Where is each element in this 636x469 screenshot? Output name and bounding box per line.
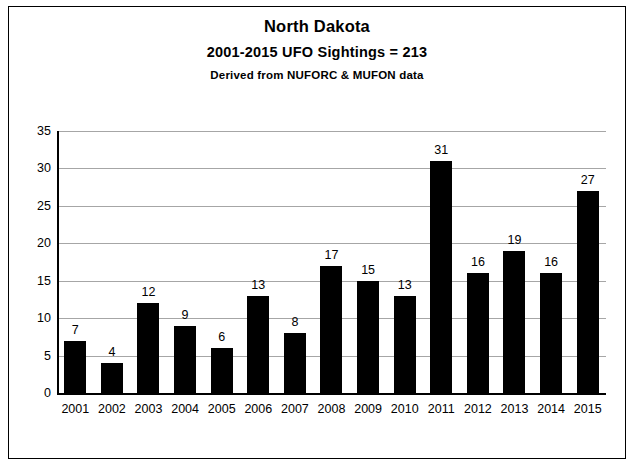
bar xyxy=(394,296,416,393)
chart-header: North Dakota 2001-2015 UFO Sightings = 2… xyxy=(9,17,625,81)
bar xyxy=(467,273,489,393)
chart-source-note: Derived from NUFORC & MUFON data xyxy=(9,69,625,81)
x-axis-tick: 2001 xyxy=(61,402,89,416)
x-axis-tick: 2015 xyxy=(574,402,602,416)
bar-group: 272015 xyxy=(569,131,606,393)
bar xyxy=(320,266,342,393)
bar-group: 132006 xyxy=(240,131,277,393)
y-axis-tick: 20 xyxy=(37,236,51,250)
x-axis-tick: 2006 xyxy=(244,402,272,416)
bar-value-label: 7 xyxy=(72,323,79,337)
y-axis-tick: 15 xyxy=(37,274,51,288)
bar-group: 152009 xyxy=(350,131,387,393)
bar-value-label: 15 xyxy=(361,263,375,277)
bar-value-label: 13 xyxy=(251,278,265,292)
y-axis-line xyxy=(57,131,59,393)
bar-value-label: 27 xyxy=(581,173,595,187)
x-axis-tick: 2002 xyxy=(98,402,126,416)
bar-group: 82007 xyxy=(277,131,314,393)
bar xyxy=(64,341,86,393)
y-axis-tick: 30 xyxy=(37,161,51,175)
bar-value-label: 12 xyxy=(142,285,156,299)
bar-value-label: 9 xyxy=(182,308,189,322)
x-axis-tick: 2003 xyxy=(135,402,163,416)
bar-value-label: 6 xyxy=(218,330,225,344)
y-axis-tick: 5 xyxy=(44,349,51,363)
bar-value-label: 16 xyxy=(544,255,558,269)
bar-value-label: 17 xyxy=(325,248,339,262)
y-axis-tick: 0 xyxy=(44,386,51,400)
bar-value-label: 16 xyxy=(471,255,485,269)
x-axis-tick: 2011 xyxy=(428,402,455,416)
bar-value-label: 19 xyxy=(508,233,522,247)
x-axis-tick: 2013 xyxy=(501,402,529,416)
x-axis-tick: 2005 xyxy=(208,402,236,416)
plot-area: 05101520253035 7200142002122003920046200… xyxy=(57,131,606,393)
bar-group: 192013 xyxy=(496,131,533,393)
bar-group: 42002 xyxy=(94,131,131,393)
y-axis-tick: 25 xyxy=(37,199,51,213)
bar xyxy=(137,303,159,393)
bar-value-label: 31 xyxy=(434,143,448,157)
bar xyxy=(577,191,599,393)
bar-series: 7200142002122003920046200513200682007172… xyxy=(57,131,606,393)
x-axis-tick: 2014 xyxy=(537,402,565,416)
x-axis-tick: 2004 xyxy=(171,402,199,416)
bar xyxy=(101,363,123,393)
bar xyxy=(174,326,196,393)
bar-group: 62005 xyxy=(203,131,240,393)
bar xyxy=(540,273,562,393)
bar-group: 72001 xyxy=(57,131,94,393)
bar-group: 162014 xyxy=(533,131,570,393)
bar xyxy=(430,161,452,393)
x-axis-tick: 2012 xyxy=(464,402,492,416)
bar-group: 172008 xyxy=(313,131,350,393)
bar-group: 312011 xyxy=(423,131,460,393)
bar-value-label: 8 xyxy=(291,315,298,329)
gridline xyxy=(57,393,606,395)
bar xyxy=(211,348,233,393)
chart-container: North Dakota 2001-2015 UFO Sightings = 2… xyxy=(8,6,626,459)
x-axis-tick: 2008 xyxy=(318,402,346,416)
bar xyxy=(284,333,306,393)
bar-group: 122003 xyxy=(130,131,167,393)
bar-value-label: 4 xyxy=(108,345,115,359)
bar xyxy=(247,296,269,393)
bar xyxy=(503,251,525,393)
x-axis-tick: 2010 xyxy=(391,402,419,416)
x-axis-tick: 2009 xyxy=(354,402,382,416)
bar-group: 132010 xyxy=(386,131,423,393)
y-axis-tick: 35 xyxy=(37,124,51,138)
bar-group: 162012 xyxy=(460,131,497,393)
x-axis-tick: 2007 xyxy=(281,402,309,416)
bar-value-label: 13 xyxy=(398,278,412,292)
y-axis-tick: 10 xyxy=(37,311,51,325)
bar-group: 92004 xyxy=(167,131,204,393)
chart-subtitle: 2001-2015 UFO Sightings = 213 xyxy=(9,44,625,60)
bar xyxy=(357,281,379,393)
chart-title: North Dakota xyxy=(9,17,625,36)
